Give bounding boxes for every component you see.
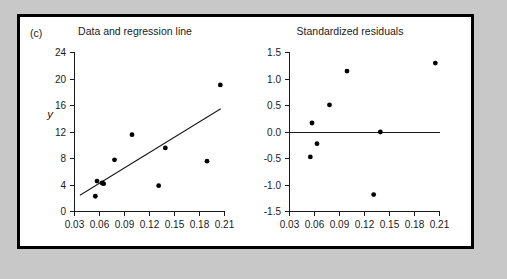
data-point: [156, 183, 161, 188]
data-point: [378, 130, 383, 135]
x-tick-label: 0.03: [65, 219, 85, 230]
x-tick-label: 0.06: [305, 219, 325, 230]
x-tick-label: 0.21: [430, 219, 450, 230]
y-ticks-right: 1.5 1.0 0.5 0.0 -0.5 -1.0 -1.5: [264, 47, 290, 217]
data-point: [130, 132, 135, 137]
y-tick-label: 1.0: [267, 74, 281, 85]
y-tick-label: 24: [55, 47, 67, 58]
data-point: [101, 181, 106, 186]
x-tick-label: 0.03: [280, 219, 300, 230]
data-point: [93, 194, 98, 199]
data-point: [308, 155, 313, 160]
y-tick-label: 16: [55, 100, 67, 111]
y-tick-label: -1.5: [264, 206, 282, 217]
y-tick-label: 12: [55, 127, 67, 138]
y-tick-label: 4: [60, 180, 66, 191]
scatter-points-left: [93, 83, 223, 199]
x-tick-label: 0.09: [330, 219, 350, 230]
x-tick-label: 0.15: [380, 219, 400, 230]
y-axis-label-left: y: [46, 108, 54, 120]
x-tick-label: 0.12: [140, 219, 160, 230]
data-point: [371, 192, 376, 197]
y-tick-label: 0.5: [267, 100, 281, 111]
statistical-figure: (c) Data and regression line y 24 20: [20, 17, 471, 246]
y-tick-label: 0.0: [267, 127, 281, 138]
scatter-points-right: [308, 61, 438, 197]
panel-title-right: Standardized residuals: [297, 25, 404, 37]
panel-data-regression: Data and regression line y 24 20 16 12: [46, 25, 234, 230]
x-tick-label: 0.18: [405, 219, 425, 230]
data-point: [205, 159, 210, 164]
data-point: [112, 157, 117, 162]
data-point: [163, 146, 168, 151]
data-point: [310, 121, 315, 126]
x-ticks-right: 0.03 0.06 0.09 0.12 0.15 0.18 0.21: [280, 212, 450, 231]
data-point: [218, 83, 223, 88]
x-tick-label: 0.06: [90, 219, 110, 230]
y-tick-label: 20: [55, 74, 67, 85]
x-tick-label: 0.18: [190, 219, 210, 230]
data-point: [433, 61, 438, 66]
y-tick-label: 0: [60, 206, 66, 217]
y-tick-label: -0.5: [264, 153, 282, 164]
x-tick-label: 0.15: [165, 219, 185, 230]
y-tick-label: -1.0: [264, 180, 282, 191]
data-point: [315, 141, 320, 146]
data-point: [345, 69, 350, 74]
figure-frame: (c) Data and regression line y 24 20: [17, 14, 474, 249]
y-tick-label: 1.5: [267, 47, 281, 58]
x-tick-label: 0.21: [215, 219, 235, 230]
x-tick-label: 0.12: [355, 219, 375, 230]
panel-title-left: Data and regression line: [78, 25, 192, 37]
data-point: [327, 103, 332, 108]
figure-root: (c) Data and regression line y 24 20: [0, 0, 507, 279]
y-tick-label: 8: [60, 153, 66, 164]
x-tick-label: 0.09: [115, 219, 135, 230]
x-ticks-left: 0.03 0.06 0.09 0.12 0.15 0.18 0.21: [65, 212, 235, 231]
data-point: [95, 179, 100, 184]
y-ticks-left: 24 20 16 12 8 4 0: [55, 47, 75, 217]
panel-label: (c): [30, 27, 42, 39]
panel-standardized-residuals: Standardized residuals 1.5 1.0 0.5 0.0: [264, 25, 450, 230]
